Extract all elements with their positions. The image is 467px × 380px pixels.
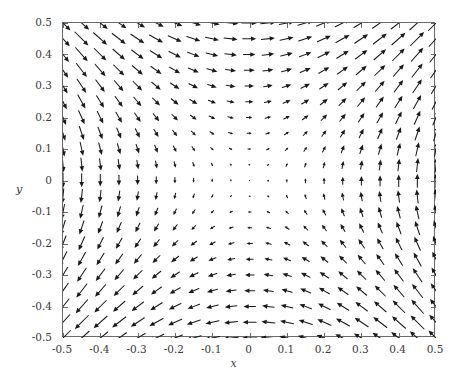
x-tick-label: 0.2 bbox=[315, 344, 332, 355]
plot-frame bbox=[62, 22, 435, 337]
x-tick-label: 0.3 bbox=[352, 344, 369, 355]
y-tick-label: 0 bbox=[0, 175, 52, 186]
y-tick-label: -0.4 bbox=[0, 301, 52, 312]
y-tick-label: 0.1 bbox=[0, 143, 52, 154]
y-tick-label: 0.2 bbox=[0, 112, 52, 123]
x-axis-title: x bbox=[0, 357, 467, 370]
y-tick-label: -0.3 bbox=[0, 269, 52, 280]
y-tick-label: 0.5 bbox=[0, 17, 52, 28]
y-tick-label: -0.2 bbox=[0, 238, 52, 249]
y-tick-label: 0.4 bbox=[0, 49, 52, 60]
x-tick-label: -0.1 bbox=[201, 344, 221, 355]
x-tick-label: -0.5 bbox=[52, 344, 72, 355]
x-tick-label: 0.4 bbox=[389, 344, 406, 355]
y-tick-label: -0.1 bbox=[0, 206, 52, 217]
vector-field-canvas bbox=[63, 23, 436, 338]
y-tick-label: -0.5 bbox=[0, 332, 52, 343]
x-tick-label: -0.3 bbox=[126, 344, 146, 355]
x-tick-label: 0.5 bbox=[427, 344, 444, 355]
x-tick-label: 0 bbox=[245, 344, 252, 355]
x-tick-label: -0.2 bbox=[164, 344, 184, 355]
x-tick-label: 0.1 bbox=[277, 344, 294, 355]
x-tick-label: -0.4 bbox=[89, 344, 109, 355]
vector-field-plot: y 0.50.40.30.20.10-0.1-0.2-0.3-0.4-0.5 -… bbox=[0, 0, 467, 380]
y-tick-label: 0.3 bbox=[0, 80, 52, 91]
